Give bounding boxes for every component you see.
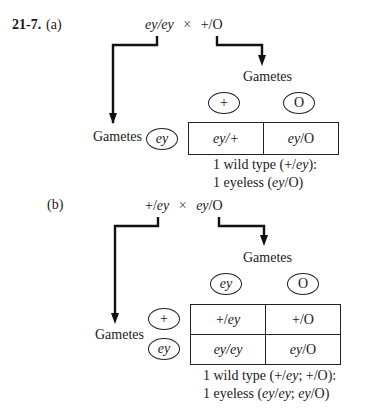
cell: +/O <box>266 305 341 335</box>
part-b-gametes-left-label: Gametes <box>95 327 144 343</box>
part-a-gametes-left-label: Gametes <box>93 129 142 145</box>
part-b-label: (b) <box>47 197 63 213</box>
part-b-punnett-square: +/ey +/O ey/ey ey/O <box>190 304 341 365</box>
part-b-gamete-left-0: + <box>148 308 180 330</box>
cell: +/ey <box>191 305 266 335</box>
cross-symbol: × <box>179 198 187 213</box>
cell: ey/O <box>264 123 339 155</box>
arrow-b-left <box>115 217 158 314</box>
arrow-b-right <box>219 217 264 236</box>
arrow-a-right <box>217 36 262 56</box>
table-row: ey/+ ey/O <box>189 123 339 155</box>
part-b-gamete-left-1: ey <box>148 338 180 360</box>
part-a-label: (a) <box>46 17 62 33</box>
part-b-gametes-top-label: Gametes <box>243 250 292 266</box>
part-a-gamete-left-0: ey <box>146 128 178 150</box>
cell: ey/O <box>266 335 341 365</box>
parent2: +/O <box>201 17 223 32</box>
parent1: +/ey <box>145 198 169 213</box>
problem-number: 21-7. <box>12 17 41 33</box>
cell: ey/+ <box>189 123 264 155</box>
part-a-gametes-top-label: Gametes <box>243 69 292 85</box>
part-a-gamete-top-0: + <box>208 92 240 114</box>
part-a-punnett-square: ey/+ ey/O <box>188 122 339 155</box>
part-b-gamete-top-0: ey <box>210 273 242 295</box>
part-a-gamete-top-1: O <box>283 92 315 114</box>
part-a-cross: ey/ey × +/O <box>145 17 223 33</box>
arrow-a-left <box>113 36 157 123</box>
part-b-gamete-top-1: O <box>287 273 319 295</box>
part-b-result: 1 wild type (+/ey; +/O): 1 eyeless (ey/e… <box>203 367 336 403</box>
part-a-result: 1 wild type (+/ey): 1 eyeless (ey/O) <box>213 156 317 192</box>
table-row: +/ey +/O <box>191 305 341 335</box>
parent1: ey/ey <box>145 17 174 32</box>
cell: ey/ey <box>191 335 266 365</box>
part-b-cross: +/ey × ey/O <box>145 198 223 214</box>
table-row: ey/ey ey/O <box>191 335 341 365</box>
cross-symbol: × <box>183 17 191 32</box>
parent2: ey/O <box>196 198 222 213</box>
